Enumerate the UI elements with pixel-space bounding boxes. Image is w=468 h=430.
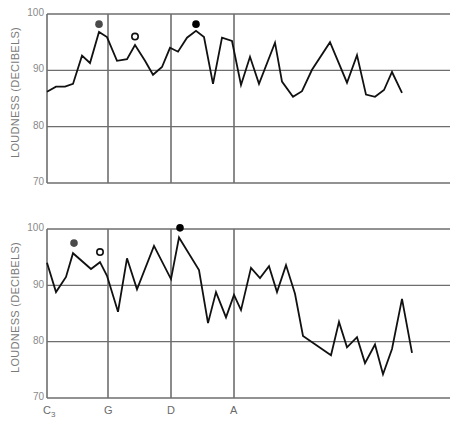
plot-canvas [0,0,468,430]
top-open-circle-marker [132,33,138,39]
top-loudness-line [47,31,402,97]
bottom-open-circle-marker [97,249,103,255]
top-filled-black-marker [192,20,200,28]
bottom-filled-black-marker [176,224,184,232]
bottom-filled-gray-marker [70,239,78,247]
bottom-loudness-line [47,238,412,375]
top-filled-gray-marker [95,20,103,28]
